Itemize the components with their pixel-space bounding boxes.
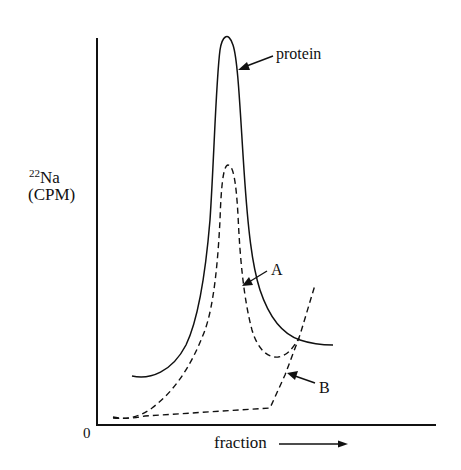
protein-annotation-arrow-line: [244, 56, 273, 67]
b-arrowhead-icon: [287, 371, 298, 380]
y-axis-label: 22Na: [29, 167, 60, 187]
a-label: A: [271, 261, 283, 278]
x-axis-label: fraction: [214, 433, 267, 452]
isotope-superscript: 22: [29, 167, 40, 179]
x-axis-arrowhead-icon: [338, 441, 348, 448]
curve-a: [113, 165, 299, 418]
elution-chart: 0 22Na (CPM) fraction protein A B: [0, 0, 461, 470]
b-label: B: [319, 379, 330, 396]
b-annotation-arrow-line: [295, 376, 315, 383]
curve-b: [113, 285, 315, 418]
protein-arrowhead-icon: [238, 62, 250, 70]
protein-label: protein: [276, 45, 321, 63]
y-axis-unit: (CPM): [28, 185, 75, 204]
origin-label: 0: [83, 425, 91, 441]
